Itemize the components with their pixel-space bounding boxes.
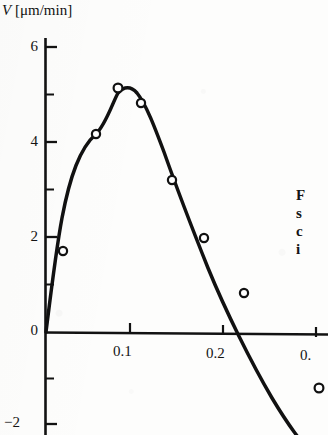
- y-tick-label-4: 4: [12, 133, 38, 150]
- caption-line-1: F: [296, 186, 328, 204]
- y-tick-label-minus-2: −2: [4, 414, 20, 431]
- data-point: [137, 99, 145, 107]
- data-point: [240, 289, 248, 297]
- y-tick-label-0: 0: [12, 322, 38, 339]
- data-point: [168, 176, 176, 184]
- x-tick-label-0.2: 0.2: [206, 345, 225, 362]
- caption-line-4: i: [296, 240, 328, 258]
- data-point: [114, 84, 123, 93]
- data-point: [59, 247, 67, 255]
- x-tick-label-0.3: 0.: [300, 347, 311, 364]
- y-axis-label: V [μm/min]: [2, 2, 72, 19]
- y-tick-label-2: 2: [12, 228, 38, 245]
- caption-line-2: s: [296, 204, 328, 222]
- caption-fragment: F s c i: [296, 186, 328, 258]
- x-axis-line: [45, 333, 328, 335]
- caption-line-3: c: [296, 222, 328, 240]
- x-tick-label-0.1: 0.1: [113, 343, 132, 360]
- y-tick-label-6: 6: [12, 38, 38, 55]
- figure-canvas: V [μm/min] 6 4 2 0 −2 0.1 0.2 0. F s c i: [0, 0, 328, 435]
- data-point: [200, 234, 208, 242]
- data-curve: [46, 88, 310, 435]
- y-axis-label-units: [μm/min]: [15, 2, 72, 18]
- data-point: [92, 130, 100, 138]
- data-point-markers: [59, 84, 324, 393]
- y-axis-label-symbol: V: [2, 2, 11, 18]
- data-point: [315, 384, 324, 393]
- chart-svg: [0, 0, 328, 435]
